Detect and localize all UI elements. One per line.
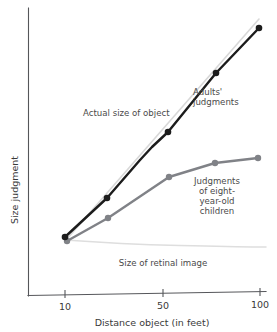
data-point-adults <box>104 195 111 202</box>
data-point-adults <box>256 25 263 32</box>
series-size-of-retinal-image <box>65 240 266 247</box>
annotation-children-judgments-line2: of eight- <box>199 186 235 196</box>
x-axis-title: Distance object (in feet) <box>95 317 210 328</box>
annotation-size-of-retinal-image: Size of retinal image <box>119 258 207 268</box>
x-tick-label-50: 50 <box>157 300 169 311</box>
x-axis-line <box>28 292 266 296</box>
annotation-children-judgments-line1: Judgments <box>193 176 240 186</box>
data-point-adults <box>213 70 220 77</box>
chart-figure: 10 50 100 Distance object (in feet) Size… <box>0 0 277 332</box>
data-point-children <box>105 215 111 221</box>
data-point-children <box>255 155 261 161</box>
annotation-adults-judgments-line2: judgments <box>192 97 239 107</box>
annotation-children-judgments-line3: year-old <box>200 196 235 206</box>
data-point-adults <box>62 234 69 241</box>
annotation-children-judgments-line4: children <box>200 206 234 216</box>
data-point-children <box>212 160 218 166</box>
chart-canvas: 10 50 100 Distance object (in feet) Size… <box>0 0 277 332</box>
annotation-actual-size-of-object: Actual size of object <box>83 108 170 118</box>
data-point-children <box>166 174 172 180</box>
y-axis-title: Size judgment <box>9 156 20 224</box>
data-point-adults <box>165 129 172 136</box>
x-tick-label-100: 100 <box>251 299 269 310</box>
annotation-adults-judgments-line1: Adults' <box>193 87 222 97</box>
x-tick-label-10: 10 <box>59 301 71 312</box>
